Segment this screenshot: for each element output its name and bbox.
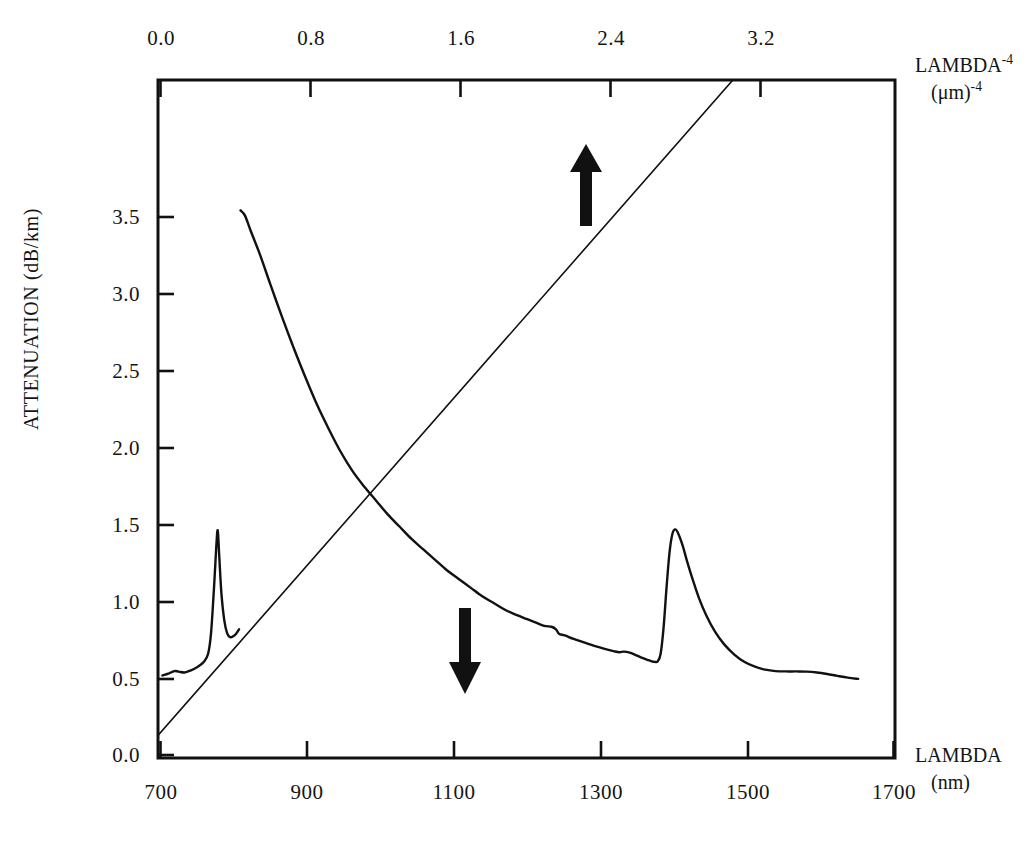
top-axis-title-line1: LAMBDA-4 [915, 52, 1013, 79]
bottom-tick-label-0: 700 [145, 780, 178, 805]
bottom-tick-label-4: 1500 [726, 780, 770, 805]
measured-attenuation-curve [241, 210, 859, 679]
left-tick-label-5: 2.5 [98, 359, 140, 384]
left-tick-label-7: 3.5 [98, 205, 140, 230]
left-tick-label-2: 1.0 [98, 590, 140, 615]
rayleigh-line-curve [158, 80, 733, 735]
plot-frame [158, 80, 895, 758]
top-axis-unit-base: (μm) [931, 81, 971, 103]
top-tick-label-1: 0.8 [297, 26, 325, 51]
top-tick-label-4: 3.2 [747, 26, 775, 51]
bottom-tick-label-3: 1300 [579, 780, 623, 805]
bottom-axis-title: LAMBDA (nm) [915, 742, 1002, 796]
top-axis-ticks [161, 80, 761, 97]
top-tick-label-0: 0.0 [147, 26, 175, 51]
down-arrow-icon [449, 608, 481, 694]
bottom-axis-ticks [161, 741, 894, 758]
left-tick-label-6: 3.0 [98, 282, 140, 307]
y-axis-title: ATTENUATION (dB/km) [18, 208, 45, 430]
bottom-axis-title-line2: (nm) [915, 769, 1002, 796]
top-axis-title-exponent: -4 [1002, 52, 1013, 67]
left-tick-label-3: 1.5 [98, 513, 140, 538]
top-axis-title: LAMBDA-4 (μm)-4 [915, 52, 1013, 106]
top-axis-title-line2: (μm)-4 [915, 79, 1013, 106]
attenuation-spectrum-figure: 0.0 0.8 1.6 2.4 3.2 700 900 1100 1300 15… [0, 0, 1036, 849]
bottom-axis-title-line1: LAMBDA [915, 742, 1002, 769]
top-tick-label-2: 1.6 [447, 26, 475, 51]
up-arrow-icon [570, 144, 602, 226]
bottom-tick-label-1: 900 [291, 780, 324, 805]
top-tick-label-3: 2.4 [597, 26, 625, 51]
top-axis-unit-exponent: -4 [971, 79, 982, 94]
top-axis-title-base: LAMBDA [915, 54, 1002, 76]
plot-canvas [0, 0, 1036, 849]
bottom-tick-label-5: 1700 [872, 780, 916, 805]
left-tick-label-4: 2.0 [98, 436, 140, 461]
left-tick-label-1: 0.5 [98, 667, 140, 692]
bottom-tick-label-2: 1100 [432, 780, 475, 805]
left-tick-label-0: 0.0 [98, 743, 140, 768]
